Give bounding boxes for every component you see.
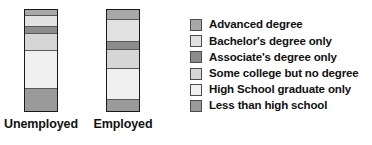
legend-swatch-icon (190, 19, 202, 31)
bar-segment[interactable] (107, 42, 139, 51)
bar-label-unemployed: Unemployed (0, 117, 82, 131)
legend-item[interactable]: Less than high school (190, 98, 370, 114)
legend-swatch-icon (190, 84, 202, 96)
legend-label: Advanced degree (209, 19, 303, 31)
legend: Advanced degreeBachelor's degree onlyAss… (190, 17, 370, 114)
legend-label: Bachelor's degree only (209, 36, 332, 48)
bar-segment[interactable] (107, 10, 139, 20)
legend-label: Some college but no degree (209, 68, 358, 80)
legend-swatch-icon (190, 35, 202, 47)
plot-area: Unemployed Employed (0, 0, 186, 145)
legend-item[interactable]: High School graduate only (190, 82, 370, 98)
bar-unemployed[interactable] (24, 9, 58, 112)
legend-item[interactable]: Associate's degree only (190, 49, 370, 65)
bar-segment[interactable] (25, 16, 57, 28)
bar-employed[interactable] (106, 9, 140, 112)
bar-segment[interactable] (25, 89, 57, 111)
legend-item[interactable]: Advanced degree (190, 17, 370, 33)
legend-item[interactable]: Some college but no degree (190, 66, 370, 82)
bar-segment[interactable] (25, 51, 57, 88)
legend-label: Less than high school (209, 100, 327, 112)
bar-segment[interactable] (107, 20, 139, 42)
bar-segment[interactable] (25, 27, 57, 34)
legend-swatch-icon (190, 68, 202, 80)
bar-label-employed: Employed (82, 117, 164, 131)
legend-label: High School graduate only (209, 84, 351, 96)
bar-segment[interactable] (107, 69, 139, 101)
stacked-bar-chart: Unemployed Employed Advanced degreeBache… (0, 0, 372, 145)
bar-segment[interactable] (107, 100, 139, 111)
legend-label: Associate's degree only (209, 52, 337, 64)
bar-segment[interactable] (107, 50, 139, 68)
legend-swatch-icon (190, 100, 202, 112)
legend-swatch-icon (190, 51, 202, 63)
legend-item[interactable]: Bachelor's degree only (190, 33, 370, 49)
bar-segment[interactable] (25, 34, 57, 51)
